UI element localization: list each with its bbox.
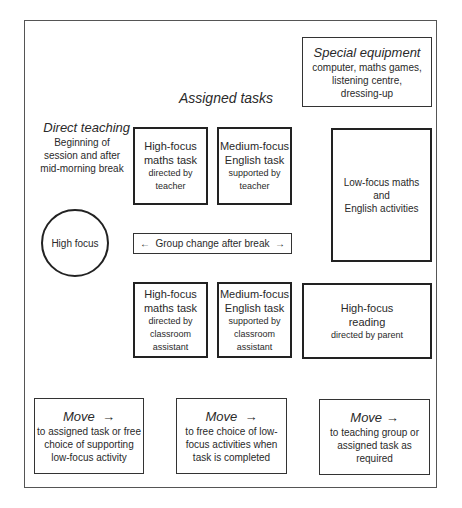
- task-box-maths-teacher: High-focus maths task directed by teache…: [133, 127, 208, 205]
- task-box-english-assistant: Medium-focus English task supported by c…: [217, 282, 292, 358]
- task-support: classroom: [150, 328, 191, 341]
- reading-subject: reading: [349, 315, 386, 329]
- task-title: High-focus: [144, 139, 197, 153]
- group-change-banner: ← Group change after break →: [133, 233, 292, 254]
- move-title: Move →: [63, 409, 115, 425]
- move-line: low-focus activity: [51, 451, 127, 464]
- low-focus-line: English activities: [345, 202, 419, 215]
- move-line: required: [356, 452, 393, 465]
- move-line: to free choice of low-: [185, 425, 277, 438]
- task-support: directed by: [148, 167, 192, 180]
- move-box-2: Move → to free choice of low- focus acti…: [176, 398, 287, 474]
- reading-area: High-focus reading directed by parent: [302, 283, 432, 359]
- low-focus-line: and: [373, 189, 390, 202]
- move-line: choice of supporting: [44, 438, 134, 451]
- task-title: Medium-focus: [220, 287, 289, 301]
- move-line: focus activities when: [186, 438, 278, 451]
- task-support: teacher: [155, 180, 185, 193]
- task-support: directed by: [148, 315, 192, 328]
- task-subject: English task: [225, 153, 284, 167]
- task-title: Medium-focus: [220, 139, 289, 153]
- direct-teaching-title: Direct teaching: [34, 120, 130, 136]
- direct-teaching-line: session and after: [34, 149, 130, 162]
- special-equipment-area: Special equipment computer, maths games,…: [302, 37, 432, 107]
- direct-teaching-line: mid-morning break: [34, 162, 130, 175]
- task-support: supported by: [228, 315, 280, 328]
- high-focus-label: High focus: [51, 237, 98, 250]
- move-box-1: Move → to assigned task or free choice o…: [34, 398, 144, 474]
- reading-support: directed by parent: [331, 329, 403, 342]
- task-support: assistant: [237, 341, 273, 354]
- low-focus-area: Low-focus maths and English activities: [331, 128, 432, 262]
- task-subject: English task: [225, 301, 284, 315]
- special-equipment-line: computer, maths games,: [312, 61, 422, 74]
- special-equipment-title: Special equipment: [314, 45, 421, 61]
- move-line: task is completed: [193, 451, 270, 464]
- move-line: to assigned task or free: [37, 425, 141, 438]
- assigned-tasks-heading: Assigned tasks: [166, 90, 286, 107]
- move-box-3: Move → to teaching group or assigned tas…: [319, 399, 430, 475]
- reading-title: High-focus: [341, 301, 394, 315]
- task-subject: maths task: [144, 301, 197, 315]
- direct-teaching-label: Direct teaching Beginning of session and…: [34, 120, 130, 175]
- task-support: teacher: [239, 180, 269, 193]
- high-focus-circle: High focus: [41, 209, 109, 277]
- task-title: High-focus: [144, 287, 197, 301]
- direct-teaching-line: Beginning of: [34, 136, 130, 149]
- task-support: supported by: [228, 167, 280, 180]
- move-title: Move →: [350, 410, 398, 426]
- task-box-maths-assistant: High-focus maths task directed by classr…: [133, 282, 208, 358]
- task-box-english-teacher: Medium-focus English task supported by t…: [217, 127, 292, 205]
- move-title: Move →: [205, 409, 257, 425]
- task-support: classroom: [234, 328, 275, 341]
- special-equipment-line: listening centre,: [332, 74, 402, 87]
- task-support: assistant: [153, 341, 189, 354]
- move-line: assigned task as: [337, 439, 412, 452]
- special-equipment-line: dressing-up: [341, 87, 393, 100]
- move-line: to teaching group or: [330, 426, 419, 439]
- group-change-label: ← Group change after break →: [140, 237, 285, 250]
- task-subject: maths task: [144, 153, 197, 167]
- low-focus-line: Low-focus maths: [344, 176, 420, 189]
